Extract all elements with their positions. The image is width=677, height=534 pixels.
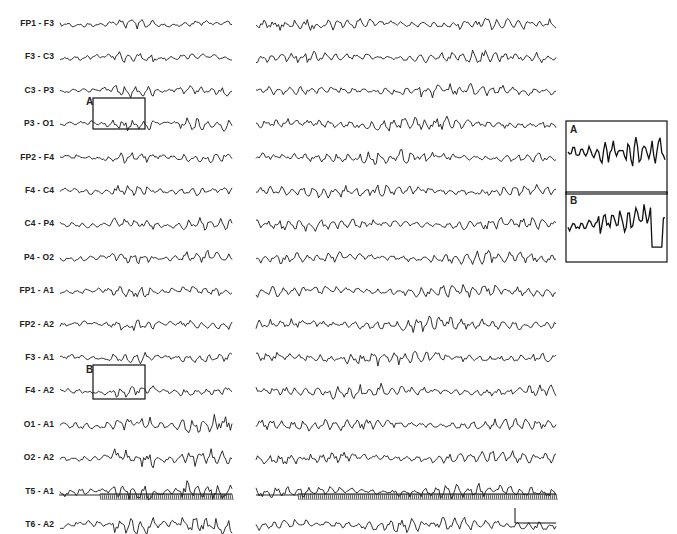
photic-stimulation-marker-right [298,494,557,500]
highlight-box-a [93,98,145,129]
eeg-trace-r [256,285,556,298]
eeg-trace-l [60,218,232,231]
eeg-trace-l [60,320,232,330]
box-label-a: A [86,96,93,107]
eeg-trace-l [60,52,232,63]
eeg-trace-r [256,50,556,63]
eeg-trace-l [60,352,232,363]
eeg-trace-r [256,418,556,431]
eeg-trace-l [60,153,232,163]
highlight-box-b [93,365,145,399]
inset-label-a: A [570,124,577,135]
inset-label-b: B [570,195,577,206]
eeg-trace-r [256,383,556,399]
eeg-trace-r [256,517,556,532]
eeg-trace-r [256,351,556,366]
eeg-trace-l [60,20,232,30]
inset-trace [568,204,665,247]
eeg-trace-l [60,386,232,398]
eeg-trace-l [60,449,232,468]
eeg-trace-l [60,250,232,263]
inset-trace [568,137,665,166]
eeg-trace-r [256,218,556,232]
eeg-trace-l [60,118,232,132]
eeg-trace-l [60,287,232,297]
eeg-trace-r [256,451,556,464]
eeg-traces: ABAB [0,0,677,534]
eeg-trace-r [256,150,556,165]
eeg-trace-l [60,414,232,433]
eeg-trace-l [60,186,232,196]
box-label-b: B [86,364,93,375]
eeg-trace-r [256,250,556,264]
eeg-trace-r [256,316,556,333]
eeg-trace-r [256,83,556,97]
eeg-trace-r [256,184,556,198]
eeg-trace-l [60,518,232,534]
eeg-trace-r [256,116,556,131]
eeg-trace-r [256,18,556,30]
